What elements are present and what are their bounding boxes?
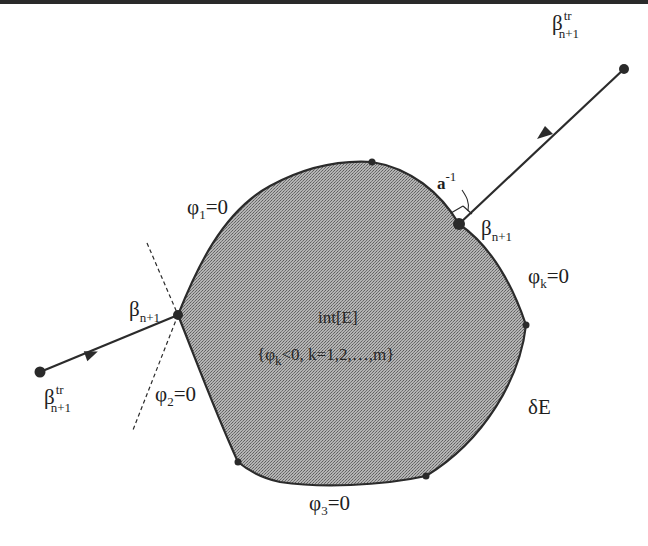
return-point-left — [173, 310, 183, 320]
dashed-normal-line-lower — [133, 315, 178, 430]
return-point-right-label: βn+1 — [481, 216, 512, 244]
trial-point-right-label: βtrn+1 — [552, 8, 579, 41]
constraint-phi1-label: φ1=0 — [187, 195, 228, 222]
arrow-left-path — [84, 351, 99, 362]
return-path-right — [459, 69, 624, 224]
vertex-bottom-right — [423, 473, 430, 480]
vertex-bottom-left — [235, 459, 242, 466]
annotation-a-inverse: a-1 — [437, 169, 456, 193]
vertex-top — [369, 159, 376, 166]
vertex-right — [523, 322, 530, 329]
constraint-phi2-label: φ2=0 — [155, 382, 196, 409]
boundary-label: δE — [528, 395, 551, 419]
yield-surface-diagram: βtrn+1 a-1 βn+1 φ1=0 φk=0 βn+1 int[E] {φ… — [0, 0, 648, 546]
constraint-phi3-label: φ3=0 — [309, 491, 350, 518]
trial-point-right — [619, 64, 629, 74]
interior-label: int[E] — [318, 308, 358, 327]
trial-point-left — [35, 367, 46, 378]
dashed-normal-line-upper — [147, 243, 178, 315]
constraint-phik-label: φk=0 — [528, 264, 569, 291]
trial-point-left-label: βtrn+1 — [44, 382, 71, 415]
return-point-left-label: βn+1 — [129, 297, 160, 325]
return-point-right — [453, 218, 465, 230]
